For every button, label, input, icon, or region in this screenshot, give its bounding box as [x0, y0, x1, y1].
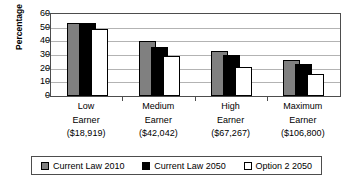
- x-axis-label: MediumEarner($42,042): [122, 100, 194, 141]
- x-axis-labels: LowEarner($18,919)MediumEarner($42,042)H…: [50, 100, 341, 144]
- x-axis-label-line: Low: [50, 100, 122, 114]
- x-axis-label-line: Earner: [267, 114, 339, 128]
- x-axis-label-line: Earner: [195, 114, 267, 128]
- legend-swatch-gray-icon: [41, 162, 49, 170]
- x-axis-label-line: Medium: [122, 100, 194, 114]
- y-tick-label: 20: [6, 64, 50, 73]
- chart-legend: Current Law 2010Current Law 2050Option 2…: [31, 156, 322, 175]
- x-axis-label-line: Maximum: [267, 100, 339, 114]
- legend-label: Current Law 2010: [53, 161, 125, 171]
- y-tick-label: 30: [6, 50, 50, 59]
- legend-swatch-white-icon: [244, 162, 252, 170]
- bar: [91, 29, 108, 96]
- y-tick-label: 10: [6, 77, 50, 86]
- x-axis-label-line: ($106,800): [267, 127, 339, 141]
- bar: [307, 74, 324, 96]
- y-tick-label: 40: [6, 36, 50, 45]
- x-axis-label: LowEarner($18,919): [50, 100, 122, 141]
- x-axis-label-line: High: [195, 100, 267, 114]
- legend-label: Current Law 2050: [154, 161, 226, 171]
- bar-chart: Percentage 6050403020100 LowEarner($18,9…: [0, 0, 353, 181]
- y-tick-label: 60: [6, 9, 50, 18]
- x-axis-label-line: ($42,042): [122, 127, 194, 141]
- x-axis-label-line: ($18,919): [50, 127, 122, 141]
- legend-item[interactable]: Current Law 2050: [142, 161, 226, 171]
- x-axis-label: MaximumEarner($106,800): [267, 100, 339, 141]
- legend-item[interactable]: Option 2 2050: [244, 161, 313, 171]
- y-tick-label: 50: [6, 23, 50, 32]
- x-axis-label-line: Earner: [50, 114, 122, 128]
- x-axis-label: HighEarner($67,267): [195, 100, 267, 141]
- bar: [163, 56, 180, 96]
- x-axis-label-line: ($67,267): [195, 127, 267, 141]
- y-axis: 6050403020100: [0, 13, 50, 97]
- y-tick-label: 0: [6, 91, 50, 100]
- legend-swatch-black-icon: [142, 162, 150, 170]
- plot-area: [50, 13, 341, 97]
- x-axis-label-line: Earner: [122, 114, 194, 128]
- legend-item[interactable]: Current Law 2010: [41, 161, 125, 171]
- legend-label: Option 2 2050: [256, 161, 313, 171]
- bar: [235, 67, 252, 96]
